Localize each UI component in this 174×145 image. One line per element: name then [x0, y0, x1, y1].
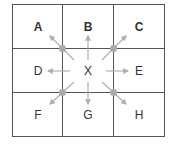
cell-c: C: [135, 20, 144, 34]
cell-a: A: [34, 20, 43, 34]
cell-e: E: [135, 64, 143, 78]
cell-g: G: [83, 108, 92, 122]
cell-d: D: [34, 64, 43, 78]
cell-h: H: [135, 108, 144, 122]
cell-b: B: [84, 20, 93, 34]
cell-x: X: [84, 64, 92, 78]
cell-f: F: [34, 108, 41, 122]
neighborhood-diagram: A B C D X E F G H: [0, 0, 174, 145]
